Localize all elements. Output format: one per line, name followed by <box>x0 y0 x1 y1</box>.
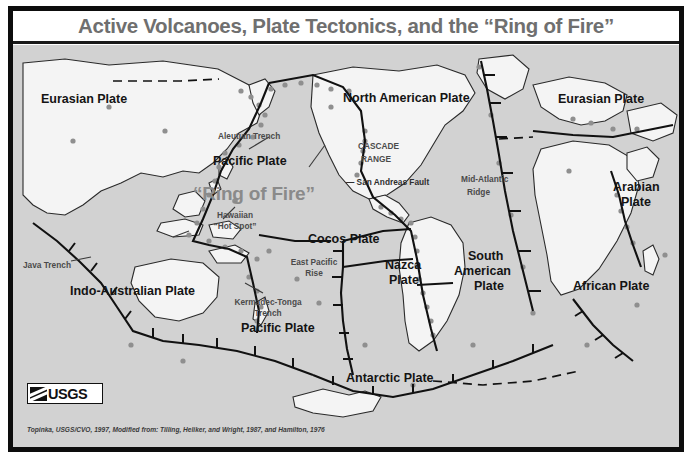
usgs-logo: USGS <box>27 383 103 404</box>
credit-line: Topinka, USGS/CVO, 1997, Modified from: … <box>27 426 325 433</box>
map-label-feature: Ridge <box>467 188 490 197</box>
map-label-feature: Mid-Atlantic <box>461 175 508 184</box>
map-label-feature: RANGE <box>361 155 391 164</box>
map-label-plate: American <box>454 265 511 279</box>
map-label-plate: South <box>468 250 503 264</box>
map-label-feature: Trench <box>220 309 316 318</box>
map-label-plate: Indo-Australian Plate <box>70 285 195 299</box>
map-label-plate: Plate <box>474 280 504 294</box>
map-label-feature: “Hot Spot” <box>205 222 265 231</box>
map-label-feature: East Pacific <box>284 258 344 267</box>
map-label-plate: Cocos Plate <box>308 233 380 247</box>
usgs-plate-tectonics-poster: Active Volcanoes, Plate Tectonics, and t… <box>0 0 692 467</box>
ring-of-fire-label: “Ring of Fire” <box>193 184 315 205</box>
map-label-plate: Plate <box>389 274 419 288</box>
usgs-logo-text: USGS <box>48 386 87 402</box>
map-label-feature: Hawaiian <box>205 211 265 220</box>
map-label-feature: Rise <box>284 269 344 278</box>
map-label-feature: Aleutian Trench <box>218 132 280 141</box>
map-label-plate: North American Plate <box>343 92 470 106</box>
usgs-wave-icon <box>30 387 47 401</box>
map-label-feature: CASCADE <box>358 142 399 151</box>
map-label-plate: Antarctic Plate <box>346 372 434 386</box>
map-label-plate: Eurasian Plate <box>41 93 127 107</box>
world-map: Eurasian Plate North American Plate Eura… <box>13 45 679 447</box>
map-label-plate: Pacific Plate <box>241 322 315 336</box>
map-label-feature: Kermadec-Tonga <box>220 298 316 307</box>
map-label-feature: Java Trench <box>23 261 71 270</box>
map-label-feature: — San Andreas Fault <box>346 178 429 187</box>
map-label-plate: Plate <box>621 196 651 210</box>
page-title: Active Volcanoes, Plate Tectonics, and t… <box>78 14 614 38</box>
map-label-plate: African Plate <box>573 280 649 294</box>
map-label-plate: Pacific Plate <box>213 155 287 169</box>
map-label-plate: Arabian <box>613 181 660 195</box>
map-label-plate: Nazca <box>385 259 421 273</box>
title-band: Active Volcanoes, Plate Tectonics, and t… <box>13 11 679 44</box>
map-label-plate: Eurasian Plate <box>558 93 644 107</box>
